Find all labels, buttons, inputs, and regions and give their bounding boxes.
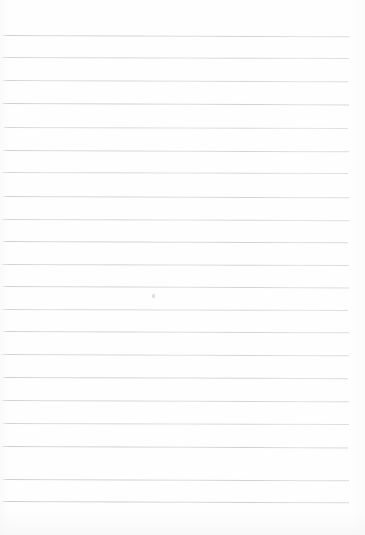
ink-speck <box>152 294 155 298</box>
lined-paper-page <box>0 0 365 535</box>
